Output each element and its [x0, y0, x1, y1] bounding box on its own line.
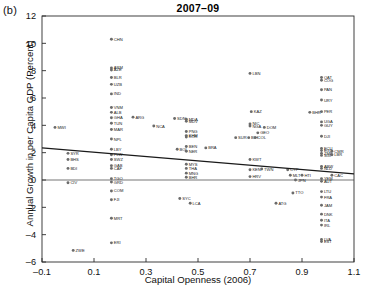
- plot-frame: [42, 16, 354, 262]
- data-point-label: ARG: [135, 115, 144, 120]
- x-tick-label: 0.5: [192, 267, 205, 277]
- data-point-label: ERI: [114, 240, 121, 245]
- y-tick-label: 12: [26, 11, 36, 21]
- data-point-label: NPL: [114, 137, 123, 142]
- y-tick-label: –6: [26, 257, 36, 267]
- data-point-label: FJI: [114, 197, 120, 202]
- data-point-label: MWI: [57, 125, 65, 130]
- data-point-label: BDI: [70, 166, 77, 171]
- y-tick-label: 10: [26, 39, 36, 49]
- data-point-label: GHA: [114, 115, 123, 120]
- figure-panel: (b) 2007–09 Annual Growth in per Capita …: [0, 0, 366, 293]
- data-point-label: DOM: [267, 125, 277, 130]
- y-tick-label: 6: [31, 93, 36, 103]
- data-point-label: FRA: [324, 195, 332, 200]
- data-point-label: PAN: [324, 87, 332, 92]
- data-point-label: DJI: [324, 134, 330, 139]
- y-tick-label: 8: [31, 66, 36, 76]
- x-tick-label: –0.1: [33, 267, 51, 277]
- data-point-label: SYR: [70, 151, 78, 156]
- y-tick-label: –4: [26, 230, 36, 240]
- data-point-label: MAR: [114, 127, 123, 132]
- data-point-label: KOR: [189, 134, 198, 139]
- data-point-label: BLR: [114, 75, 122, 80]
- data-point-label: CYP: [290, 167, 299, 172]
- data-point-label: IRL: [324, 223, 331, 228]
- data-point-label: KWT: [252, 157, 262, 162]
- data-point-label: LBN: [252, 71, 260, 76]
- y-tick-label: –2: [26, 203, 36, 213]
- x-tick-label: 0.1: [88, 267, 101, 277]
- data-point-label: LTU: [324, 189, 331, 194]
- data-point-label: COM: [114, 188, 124, 193]
- data-point-label: MRT: [114, 216, 123, 221]
- data-point-label: LCA: [193, 201, 201, 206]
- x-tick-label: 0.7: [244, 267, 257, 277]
- data-point-label: UZB: [114, 82, 122, 87]
- data-point-label: NGA: [252, 124, 261, 129]
- data-point-label: TUN: [114, 121, 122, 126]
- data-point-label: BHR: [312, 110, 321, 115]
- data-point-label: PER: [324, 109, 332, 114]
- data-point-label: COG: [324, 78, 333, 83]
- x-tick-label: 1.1: [348, 267, 361, 277]
- data-point-label: CIV: [70, 180, 77, 185]
- data-point-label: AUT: [324, 179, 333, 184]
- x-tick-label: 0.3: [140, 267, 153, 277]
- data-point-label: ZWE: [76, 248, 85, 253]
- data-point-label: HRV: [252, 174, 261, 179]
- data-point-label: AZE: [114, 67, 122, 72]
- data-point-label: KEN: [252, 167, 260, 172]
- data-point-label: BHR: [189, 175, 198, 180]
- data-point-label: CHN: [114, 37, 123, 42]
- data-point-label: EST: [324, 239, 332, 244]
- data-point-label: NCA: [156, 124, 165, 129]
- data-point-label: SUR: [238, 135, 247, 140]
- data-point-label: GUY: [324, 123, 333, 128]
- data-point-label: MDV: [189, 119, 198, 124]
- scatter-plot: 121086420–2–4–6 –0.10.10.30.50.70.91.1 C…: [0, 0, 366, 293]
- data-point-label: TTO: [295, 190, 303, 195]
- data-point-label: LBY: [114, 147, 122, 152]
- data-point-label: URY: [324, 98, 333, 103]
- data-point-label: CAF: [114, 166, 123, 171]
- data-point-label: NER: [189, 149, 198, 154]
- y-tick-label: 4: [31, 121, 36, 131]
- data-point-label: JPN: [298, 178, 306, 183]
- data-point-label: SDN: [177, 116, 186, 121]
- data-point-label: GRD: [114, 180, 123, 185]
- y-tick-label: 2: [31, 148, 36, 158]
- data-point-label: SYC: [182, 196, 190, 201]
- data-point-label: ATG: [278, 201, 286, 206]
- data-point-label: KAZ: [254, 109, 262, 114]
- x-tick-label: 0.9: [296, 267, 309, 277]
- data-point-label: ALB: [114, 110, 122, 115]
- data-point-label: BRA: [208, 145, 217, 150]
- data-point-label: JAM: [324, 203, 333, 208]
- data-point-label: DNK: [324, 212, 333, 217]
- data-point-label: BHS: [70, 157, 79, 162]
- data-point-label: IND: [114, 91, 121, 96]
- data-point-label: SWZ: [114, 157, 124, 162]
- y-tick-label: 0: [31, 175, 36, 185]
- data-point-label: COL: [258, 135, 267, 140]
- data-point-label: NLD: [324, 166, 332, 171]
- data-point-label: LBR: [334, 152, 342, 157]
- data-point-label: CAC: [334, 173, 343, 178]
